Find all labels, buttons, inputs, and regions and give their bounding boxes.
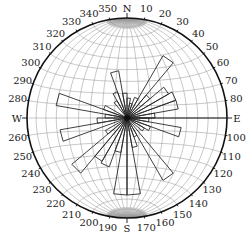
degree-label-340: 340 [79,8,98,19]
rose-petal [127,56,173,118]
degree-label-60: 60 [217,57,230,68]
cardinal-e: E [233,113,240,124]
degree-label-40: 40 [192,28,205,39]
cardinal-n: N [123,3,132,14]
degree-label-290: 290 [13,75,32,86]
degree-label-330: 330 [62,16,81,27]
degree-label-130: 130 [202,184,221,195]
degree-label-230: 230 [32,184,51,195]
degree-label-200: 200 [79,217,98,228]
degree-label-80: 80 [230,93,243,104]
rose-petals [56,56,181,195]
degree-label-220: 220 [46,198,65,209]
degree-label-350: 350 [98,3,117,14]
stereonet-svg: 1020304050607080100110120130140150160170… [0,0,251,237]
degree-label-110: 110 [222,151,241,162]
degree-label-190: 190 [98,222,117,233]
degree-label-300: 300 [21,57,40,68]
degree-label-320: 320 [46,28,65,39]
degree-label-70: 70 [225,75,238,86]
degree-label-260: 260 [8,132,27,143]
degree-label-250: 250 [13,151,32,162]
degree-label-240: 240 [21,168,40,179]
degree-label-100: 100 [227,132,246,143]
degree-label-50: 50 [206,41,219,52]
degree-label-10: 10 [140,3,153,14]
degree-label-150: 150 [173,209,192,220]
degree-label-160: 160 [155,217,174,228]
cardinal-s: S [124,223,131,234]
degree-label-280: 280 [8,93,27,104]
degree-label-30: 30 [176,16,189,27]
cardinal-w: W [12,113,23,124]
degree-label-210: 210 [62,209,81,220]
degree-label-120: 120 [214,168,233,179]
degree-label-310: 310 [32,41,51,52]
rose-petal [127,87,169,118]
degree-label-140: 140 [189,198,208,209]
degree-label-170: 170 [137,222,156,233]
degree-label-20: 20 [159,8,172,19]
rose-diagram-figure: 1020304050607080100110120130140150160170… [0,0,251,237]
